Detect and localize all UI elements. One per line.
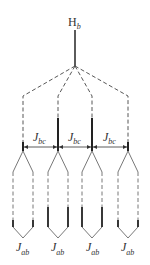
label-jbc-1: Jbc <box>33 130 46 146</box>
label-jab-2: Jab <box>51 240 64 257</box>
thick-segments-lower <box>13 207 138 227</box>
label-hb: Hb <box>68 15 81 31</box>
lower-converge-lines <box>13 227 138 238</box>
label-jab-1: Jab <box>16 240 29 257</box>
label-jab-4: Jab <box>121 240 134 257</box>
upper-branches <box>23 66 128 142</box>
lower-dashed-lines <box>13 172 138 220</box>
thick-segments-upper <box>23 118 128 151</box>
label-jab-3: Jab <box>86 240 99 257</box>
label-jbc-2: Jbc <box>68 130 81 146</box>
label-jbc-3: Jbc <box>103 130 116 146</box>
lower-split-lines <box>13 151 138 172</box>
coupling-tree-diagram: Hb Jbc Jbc Jbc <box>0 0 150 265</box>
